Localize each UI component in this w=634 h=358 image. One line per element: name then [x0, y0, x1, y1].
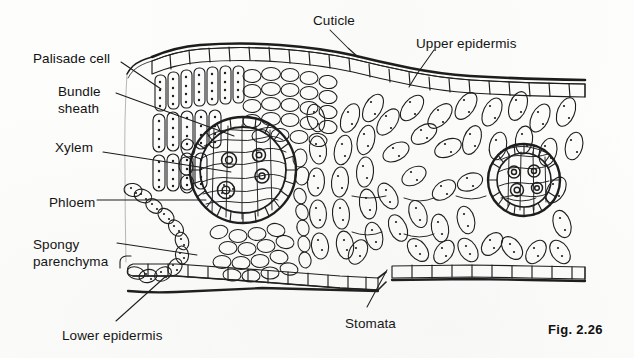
label-upper-epidermis: Upper epidermis: [416, 35, 517, 52]
leader-lower-epidermis: [116, 277, 165, 321]
xylem-vessels-small: [508, 165, 543, 197]
xylem-vessels: [218, 149, 270, 199]
mesophyll-cells-upper: [243, 68, 338, 148]
label-cuticle: Cuticle: [313, 12, 355, 29]
leader-bundle-sheath: [116, 93, 234, 136]
label-spongy-parenchyma-line1: Spongy: [33, 236, 108, 253]
label-palisade-cell: Palisade cell: [33, 50, 110, 67]
leader-stomata: [367, 270, 387, 307]
label-stomata: Stomata: [345, 315, 396, 332]
label-bundle-sheath: Bundle sheath: [58, 83, 101, 118]
figure-canvas: Cuticle Upper epidermis Palisade cell Bu…: [0, 0, 634, 358]
label-spongy-parenchyma-line2: parenchyma: [33, 253, 108, 270]
label-bundle-sheath-line2: sheath: [58, 100, 101, 117]
vascular-bundle-large: [190, 117, 296, 223]
lower-epidermis-layer: [128, 264, 585, 292]
upper-epidermis-layer: [152, 47, 585, 97]
figure-caption: Fig. 2.26: [548, 322, 603, 337]
label-phloem: Phloem: [49, 194, 95, 211]
label-lower-epidermis: Lower epidermis: [62, 327, 163, 344]
label-spongy-parenchyma: Spongy parenchyma: [33, 236, 108, 271]
phloem-region: [178, 138, 312, 282]
leaf-left-edge: [120, 74, 131, 268]
vascular-bundle-small: [488, 144, 560, 216]
label-bundle-sheath-line1: Bundle: [58, 83, 101, 100]
label-xylem: Xylem: [55, 139, 93, 156]
